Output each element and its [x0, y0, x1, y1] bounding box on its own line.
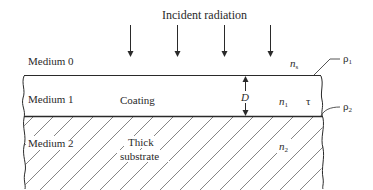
- coating-label: Coating: [120, 95, 155, 106]
- rho2-symbol: ρ2: [343, 101, 352, 114]
- rho1-symbol: ρ1: [343, 53, 352, 66]
- thickness-D-label: D: [241, 92, 249, 103]
- n1-symbol: n1: [279, 96, 288, 109]
- rho1-leader: [314, 59, 340, 75]
- incident-radiation-title: Incident radiation: [162, 9, 247, 21]
- tau-symbol: τ: [306, 96, 310, 107]
- incident-arrows: [128, 25, 274, 57]
- n2-symbol: n2: [279, 141, 288, 154]
- n2-subscript: 2: [285, 146, 289, 154]
- left-break-edge: [23, 76, 26, 189]
- medium-1-label: Medium 1: [28, 94, 74, 105]
- substrate-hatching: [0, 116, 373, 190]
- substrate-label: substrate: [120, 151, 159, 162]
- medium-0-label: Medium 0: [28, 56, 74, 67]
- ns-subscript: s: [296, 63, 299, 71]
- ns-symbol: ns: [290, 58, 298, 71]
- rho2-subscript: 2: [349, 106, 353, 114]
- n1-subscript: 1: [285, 101, 289, 109]
- thick-label: Thick: [128, 137, 154, 148]
- rho2-leader: [321, 107, 340, 116]
- rho1-subscript: 1: [349, 58, 353, 66]
- right-break-edge: [321, 76, 324, 189]
- medium-2-label: Medium 2: [28, 138, 74, 149]
